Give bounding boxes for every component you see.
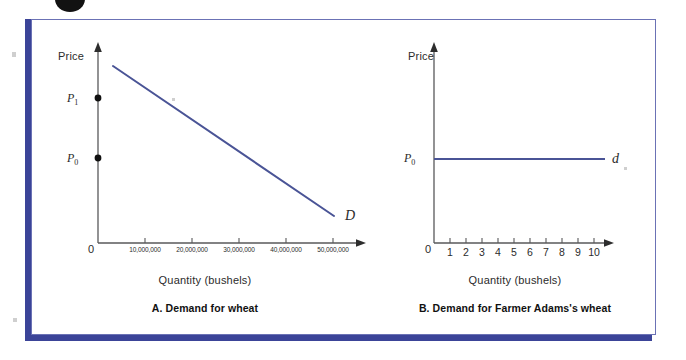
- x-tick-label-a: 50,000,000: [308, 246, 358, 253]
- x-axis-title-a: Quantity (bushels): [40, 274, 370, 286]
- scan-speck: [13, 318, 17, 322]
- x-tick-label-a: 30,000,000: [214, 246, 264, 253]
- x-tick-marks-b: [450, 238, 594, 243]
- y-tick-label-p0-b: P0: [404, 151, 415, 167]
- curve-label-d-a: D: [345, 208, 355, 224]
- chart-panel-b: Price 0 P0 1 2 3 4 5 6 7 8 9 10 d Quanti…: [390, 30, 640, 320]
- origin-label-a: 0: [88, 243, 94, 255]
- frame-accent-bottom: [25, 334, 652, 341]
- panel-caption-a: A. Demand for wheat: [40, 302, 370, 314]
- y-axis-title-a: Price: [58, 50, 84, 62]
- y-tick-label-p1-a: P1: [67, 91, 78, 107]
- x-tick-label-b: 10: [584, 246, 604, 258]
- y-axis-arrowhead-a: [94, 42, 102, 52]
- origin-label-b: 0: [425, 243, 431, 255]
- y-tick-label-p0-a: P0: [67, 151, 78, 167]
- x-axis-title-b: Quantity (bushels): [390, 274, 640, 286]
- scan-speck: [12, 52, 16, 57]
- p0-subscript: 0: [411, 158, 415, 167]
- scan-speck: [624, 167, 627, 170]
- scan-speck: [172, 98, 175, 101]
- scan-artifact-blob: [55, 0, 85, 12]
- p1-subscript: 1: [74, 98, 78, 107]
- x-tick-label-a: 10,000,000: [120, 246, 170, 253]
- x-axis-arrowhead-b: [604, 239, 614, 247]
- x-tick-label-a: 20,000,000: [167, 246, 217, 253]
- y-axis-title-b: Price: [408, 50, 434, 62]
- x-tick-marks-a: [145, 238, 333, 243]
- chart-panel-a: Price 0 P1 P0 10,000,000 20,000,000 30,0…: [40, 30, 370, 320]
- price-dot-p0-a: [95, 155, 102, 162]
- price-dot-p1-a: [95, 95, 102, 102]
- curve-label-d-b: d: [612, 151, 619, 167]
- x-tick-label-a: 40,000,000: [261, 246, 311, 253]
- panel-caption-b: B. Demand for Farmer Adams's wheat: [390, 302, 640, 314]
- demand-curve-d-a: [113, 66, 334, 216]
- p0-subscript: 0: [74, 158, 78, 167]
